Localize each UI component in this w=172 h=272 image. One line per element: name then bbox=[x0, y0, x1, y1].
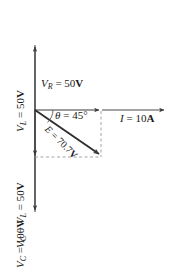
label-v-l-symbol: V bbox=[14, 125, 26, 132]
label-vcvl-eq: = bbox=[14, 204, 26, 210]
label-v-c: VC = 100V bbox=[15, 220, 28, 268]
label-vcvl-value: 50 bbox=[14, 190, 26, 201]
label-current-eq: = bbox=[126, 112, 132, 124]
label-v-r-unit: V bbox=[75, 77, 83, 89]
label-v-l-value: 50 bbox=[14, 98, 26, 109]
label-current: I = 10A bbox=[120, 113, 154, 124]
label-current-value: 10 bbox=[135, 112, 146, 124]
label-theta: θ = 45° bbox=[55, 110, 88, 121]
label-v-l-unit: V bbox=[14, 90, 26, 98]
label-v-c-eq: = bbox=[14, 247, 26, 253]
label-v-r-symbol: V bbox=[41, 77, 48, 89]
label-v-c-unit: V bbox=[14, 220, 26, 228]
label-v-c-value: 100 bbox=[14, 228, 26, 245]
label-v-c-subscript: C bbox=[19, 256, 28, 261]
label-v-l-eq: = bbox=[14, 112, 26, 118]
label-vcvl-sub-l: L bbox=[19, 213, 28, 217]
label-v-r-subscript: R bbox=[48, 82, 53, 91]
label-current-symbol: I bbox=[120, 112, 124, 124]
label-v-r: VR = 50V bbox=[41, 78, 83, 91]
label-v-r-eq: = bbox=[55, 77, 61, 89]
label-v-r-value: 50 bbox=[64, 77, 75, 89]
label-theta-symbol: θ bbox=[55, 109, 60, 121]
label-v-c-symbol: V bbox=[14, 261, 26, 268]
label-v-l-subscript: L bbox=[19, 121, 28, 125]
label-theta-value: 45 bbox=[72, 109, 83, 121]
label-vcvl-unit: V bbox=[14, 182, 26, 190]
label-theta-unit: ° bbox=[83, 109, 87, 121]
label-v-l: VL = 50V bbox=[15, 90, 28, 132]
label-theta-eq: = bbox=[63, 109, 69, 121]
label-current-unit: A bbox=[146, 112, 154, 124]
